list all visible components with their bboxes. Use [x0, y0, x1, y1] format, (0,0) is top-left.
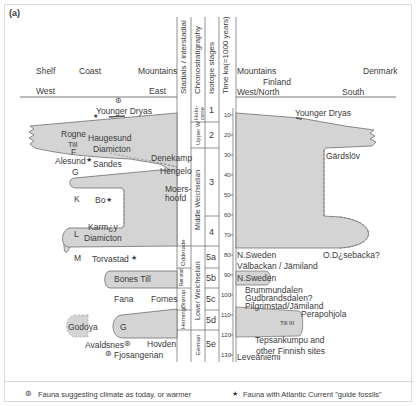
time-10: 10 — [224, 112, 231, 118]
label-valbackan: Välbackan / Jämiland — [237, 262, 318, 271]
label-bo: Bo — [95, 196, 105, 205]
chrono-lower: Lower Weichselian — [194, 261, 201, 320]
label-leveaniemi: Leveäniemi — [237, 353, 280, 362]
col-header-chronostratigraphy: Chronostratigraphy — [194, 26, 202, 94]
chrono-middle: Middle Weichselian — [194, 170, 201, 230]
time-20: 20 — [224, 132, 231, 138]
fauna-warm-icon-avaldsnes: ⊛ — [124, 340, 131, 348]
label-l: L — [74, 230, 79, 239]
time-130: 130 — [221, 352, 231, 358]
atlantic-star-icon-yd: ★ — [93, 113, 98, 119]
legend-item-warm-fauna: Fauna suggesting climate as today, or wa… — [38, 391, 191, 399]
label-torvastad: Torvastad — [92, 255, 129, 264]
label-hovden: Hovden — [147, 340, 176, 349]
col-header-stadials: Stadials / interstadial — [180, 20, 188, 94]
legend-item-atlantic-fauna: Fauna with Atlantic Current "guide fossi… — [243, 391, 382, 399]
isotope-5d: 5d — [206, 316, 216, 325]
isotope-1: 1 — [209, 106, 214, 115]
atlantic-star-icon-bo: ★ — [106, 196, 112, 203]
label-alesund: Alesund — [55, 157, 86, 166]
isotope-2: 2 — [209, 131, 214, 140]
label-bones-till: Bones Till — [114, 275, 151, 284]
label-godoya: Godoya — [68, 323, 98, 332]
time-100: 100 — [221, 292, 231, 298]
atlantic-star-icon-legend: ★ — [232, 390, 238, 397]
col-header-isotope: Isotope stages — [208, 42, 216, 94]
time-30: 30 — [224, 152, 231, 158]
label-haugesund: Haugesund — [88, 134, 131, 143]
label-moershoofd: Moers- hoofd — [165, 185, 191, 203]
label-k: K — [74, 195, 80, 204]
right-younger-dryas: Younger Dryas — [295, 109, 351, 118]
label-hengelo: Hengelo — [160, 167, 192, 176]
isotope-3: 3 — [209, 178, 214, 187]
header-shelf: Shelf — [36, 67, 55, 76]
stadial-rorstad: Rør-stad — [179, 268, 184, 286]
header-finland: Finland — [263, 78, 291, 87]
stadial-herning: Herning — [180, 308, 186, 329]
label-gardslov: Gärdslöv — [326, 152, 360, 161]
header-mountains-right: Mountains — [237, 67, 276, 76]
label-g-1: G — [72, 168, 79, 177]
time-50: 50 — [224, 192, 231, 198]
label-n-sweden-1: N.Sweden — [237, 251, 276, 260]
header-mountains-left: Mountains — [138, 67, 177, 76]
atlantic-star-icon-alesund: ★ — [86, 156, 92, 163]
header-coast: Coast — [79, 67, 101, 76]
label-diamicton-2: Diamicton — [84, 234, 122, 243]
label-perapohjola: Perapohjola — [301, 310, 346, 319]
label-denekamp: Denekamp — [151, 154, 192, 163]
label-odsebacka: O.D¿sebacka? — [323, 251, 380, 260]
time-120: 120 — [221, 332, 231, 338]
stadial-brorup: Brørup — [180, 290, 186, 308]
label-fjosangerian: Fjosangerian — [114, 351, 163, 360]
label-m: M — [74, 254, 81, 263]
header-east: East — [149, 87, 166, 96]
label-n-sweden-2: N.Sweden — [237, 274, 276, 283]
col-header-time: Time ka(=1000 years) — [222, 16, 230, 94]
label-karmoy: Karm¿y — [88, 223, 118, 232]
label-diamicton-1: Diamicton — [93, 145, 131, 154]
label-fornes: Fornes — [151, 295, 177, 304]
fauna-warm-icon-yd: ⊛ — [115, 97, 122, 105]
chrono-upper-w: Upper W — [195, 121, 201, 145]
isotope-4: 4 — [209, 228, 214, 237]
fauna-warm-icon-fjosangerian: ⊛ — [105, 350, 112, 358]
label-fana: Fana — [114, 295, 133, 304]
isotope-5a: 5a — [206, 253, 216, 262]
label-g-2: G — [120, 323, 127, 332]
header-denmark: Denmark — [363, 67, 397, 76]
label-sandes: Sandes — [93, 160, 122, 169]
time-90: 90 — [224, 272, 231, 278]
label-till-iii: Till III — [280, 320, 294, 326]
header-west-north: West/North — [237, 88, 279, 97]
chrono-holocene: Holo-cene — [193, 98, 205, 120]
time-40: 40 — [224, 172, 231, 178]
panel-label: (a) — [9, 9, 20, 18]
header-south: South — [342, 88, 364, 97]
time-80: 80 — [224, 252, 231, 258]
time-60: 60 — [224, 212, 231, 218]
label-tepsankumpu: Tepsankumpu and — [255, 336, 324, 345]
left-younger-dryas: Younger Dryas — [96, 107, 152, 116]
header-west: West — [36, 87, 55, 96]
isotope-5e: 5e — [206, 340, 216, 349]
stadial-odderade: Odderade — [180, 239, 186, 266]
right-ice-main — [236, 113, 376, 248]
label-rogne: Rogne — [61, 130, 86, 139]
time-110: 110 — [221, 312, 231, 318]
fauna-warm-icon-legend: ⊛ — [25, 390, 32, 398]
isotope-5c: 5c — [206, 295, 216, 304]
isotope-5b: 5b — [206, 274, 216, 283]
atlantic-star-icon-torvastad: ★ — [131, 254, 137, 261]
chrono-eemian: Eemian — [195, 335, 201, 355]
time-70: 70 — [224, 232, 231, 238]
legend-divider — [4, 381, 414, 382]
